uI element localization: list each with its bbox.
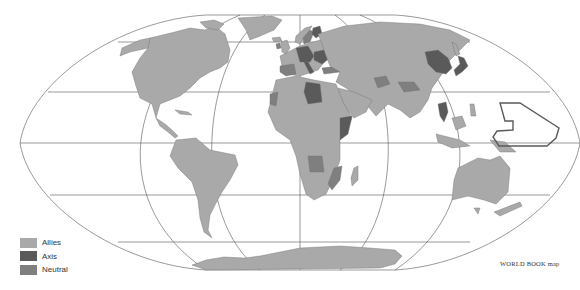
cuba [175, 110, 192, 115]
libya [304, 82, 322, 104]
south-america [170, 138, 238, 238]
legend-label: Neutral [42, 265, 68, 274]
legend-label: Axis [42, 252, 57, 261]
indonesia [436, 134, 470, 148]
allies-swatch [20, 238, 37, 248]
italian-east-africa [340, 116, 352, 140]
madagascar [351, 166, 358, 186]
japan [454, 56, 468, 76]
philippines [470, 104, 476, 116]
angola [308, 156, 324, 172]
antarctica [192, 246, 402, 270]
pacific-mandate-outline [493, 103, 559, 146]
australia [452, 156, 510, 204]
map-credit: WORLD BOOK map [500, 260, 560, 267]
neutral-swatch [20, 265, 37, 275]
iberia [280, 64, 296, 76]
legend-item-neutral: Neutral [20, 263, 68, 276]
legend: Allies Axis Neutral [20, 236, 68, 277]
borneo [452, 116, 466, 130]
legend-label: Allies [42, 238, 61, 247]
legend-item-axis: Axis [20, 250, 68, 263]
axis-swatch [20, 251, 37, 261]
canadian-arctic-islands [200, 20, 224, 30]
new-zealand [494, 202, 522, 216]
legend-item-allies: Allies [20, 236, 68, 249]
thailand [438, 102, 448, 122]
world-map [0, 0, 580, 290]
greenland [238, 16, 282, 40]
ireland [276, 43, 281, 49]
tasmania [474, 208, 480, 214]
central-america [156, 118, 178, 138]
iceland [272, 37, 282, 42]
